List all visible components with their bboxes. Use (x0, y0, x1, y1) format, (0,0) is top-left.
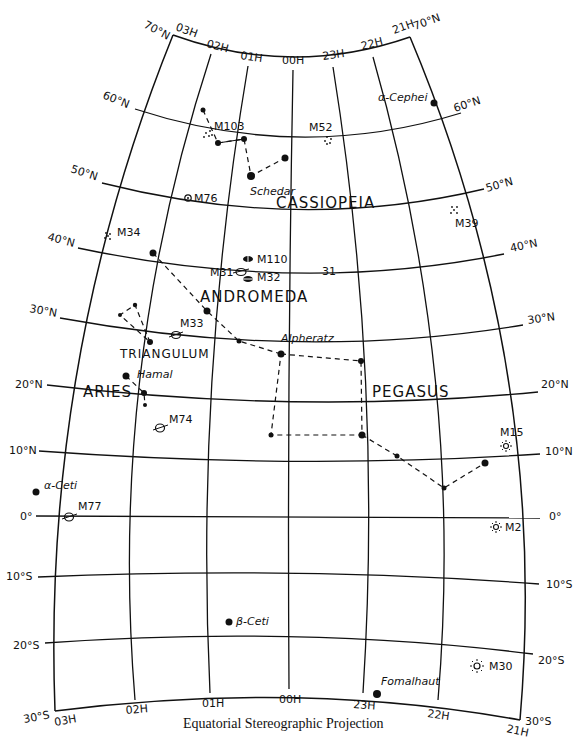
star-dot (133, 303, 137, 307)
dso-label-m33: M33 (180, 317, 204, 330)
dso-label-m52: M52 (309, 121, 333, 134)
star-alpha-cephei (431, 100, 438, 107)
dso-label-31: 31 (322, 265, 336, 278)
dec-60n-line (135, 109, 461, 137)
ra-21h-line (410, 37, 525, 720)
galaxy-icon (243, 276, 253, 282)
dec-label-right: 70°N (412, 11, 443, 33)
open-cluster-icon (203, 130, 213, 138)
star-dot (442, 486, 447, 491)
star-beta-ceti (226, 619, 233, 626)
dec-label-right: 0° (549, 510, 562, 523)
star-label-hamal: Hamal (137, 368, 173, 381)
ra-label-bottom: 02H (125, 702, 148, 717)
star-dot (215, 140, 221, 146)
ra-label-top: 22H (360, 35, 385, 53)
star-hamal (123, 373, 130, 380)
dec-label-right: 20°N (541, 378, 569, 391)
ra-00h-line (289, 70, 294, 689)
star-schedar (247, 172, 255, 180)
globular-cluster-icon (500, 440, 512, 452)
star-dot (204, 308, 211, 315)
dso-label-m103: M103 (214, 120, 245, 133)
star-label-fomalhaut: Fomalhaut (381, 675, 440, 688)
dso-label-m74: M74 (169, 413, 193, 426)
dso-label-m110: M110 (257, 253, 288, 266)
star-alpha-ceti (33, 489, 40, 496)
star-dot (282, 155, 289, 162)
ra-label-bottom: 01H (202, 697, 224, 710)
star-label-alpha-cephei: α-Cephei (378, 91, 427, 104)
star-dot (269, 433, 274, 438)
ra-01h-line (207, 66, 248, 693)
dec-label-left: 10°N (9, 444, 37, 457)
dso-label-m39: M39 (455, 217, 479, 230)
dso-label-m34: M34 (117, 226, 141, 239)
dso-label-m77: M77 (78, 500, 102, 513)
star-dot (143, 403, 147, 407)
dec-40n-line (78, 248, 504, 273)
galaxy-icon (62, 513, 77, 521)
pegasus-line (362, 435, 485, 488)
dso-label-m76: M76 (194, 192, 218, 205)
ra-label-top: 01H (240, 49, 264, 65)
dec-label-right: 10°N (545, 445, 573, 458)
constellation-cassiopeia: CASSIOPEIA (276, 194, 375, 212)
pegasus-square (271, 354, 362, 435)
dec-labels-right: 70°N 60°N 50°N 40°N 30°N 20°N 10°N 0° 10… (412, 11, 573, 728)
globular-cluster-icon (490, 521, 502, 533)
dec-label-right: 60°N (452, 94, 482, 115)
dso-label-m15: M15 (500, 426, 524, 439)
star-label-alpha-ceti: α-Ceti (44, 479, 77, 492)
chart-caption: Equatorial Stereographic Projection (183, 716, 384, 731)
star-dot (359, 432, 366, 439)
constellation-aries: ARIES (83, 383, 132, 401)
ra-labels-top: 03H 02H 01H 00H 23H 22H 21H (174, 17, 416, 67)
star-dot (237, 339, 242, 344)
ra-label-top: 02H (205, 37, 230, 55)
galaxy-icon (169, 332, 183, 339)
dec-label-left: 10°S (6, 570, 32, 583)
dec-label-left: 20°S (13, 639, 39, 652)
dso-label-m32: M32 (257, 271, 281, 284)
star-dot (201, 108, 206, 113)
dec-label-left: 20°N (15, 378, 43, 391)
star-dot (150, 250, 157, 257)
dso-label-m30: M30 (489, 660, 513, 673)
star-dot (241, 136, 247, 142)
constellation-pegasus: PEGASUS (372, 383, 449, 401)
ra-label-top: 00H (282, 54, 304, 67)
dso-label-m31: M31 (210, 266, 234, 279)
galaxy-icon (233, 269, 249, 276)
constellation-andromeda: ANDROMEDA (200, 288, 308, 306)
dec-label-right: 10°S (546, 578, 572, 591)
star-label-beta-ceti: β-Ceti (235, 615, 269, 628)
dec-label-left: 70°N (142, 18, 173, 42)
galaxy-icon (243, 256, 253, 262)
open-cluster-icon (324, 136, 332, 145)
dec-label-left: 0° (20, 510, 33, 523)
star-dot (118, 313, 122, 317)
star-dot (395, 454, 400, 459)
star-alpheratz (278, 351, 285, 358)
star-label-alpheratz: Alpheratz (280, 332, 334, 345)
dec-label-right: 20°S (538, 654, 564, 667)
star-chart: 03H 02H 01H 00H 23H 22H 21H 03H 02H 01H … (0, 0, 588, 746)
ra-label-bottom: 22H (427, 707, 451, 723)
dec-label-right: 30°S (525, 715, 551, 728)
ra-label-bottom: 23H (353, 698, 376, 713)
ra-label-bottom: 03H (53, 712, 77, 729)
star-fomalhaut (373, 690, 381, 698)
galaxy-icon (153, 424, 168, 432)
dec-label-left: 40°N (46, 230, 76, 250)
ra-label-bottom: 00H (279, 693, 301, 706)
dec-label-right: 50°N (484, 175, 514, 195)
dec-label-left: 30°S (22, 709, 50, 726)
dec-label-left: 60°N (101, 89, 132, 111)
dso-label-m2: M2 (505, 521, 522, 534)
dec-label-right: 30°N (527, 310, 556, 327)
star-dot (358, 358, 364, 364)
dec-label-left: 50°N (69, 162, 99, 183)
star-dot (141, 390, 147, 396)
dec-label-right: 40°N (509, 236, 539, 254)
